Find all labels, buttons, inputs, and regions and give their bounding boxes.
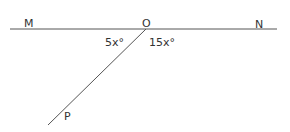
point-label-o: O bbox=[142, 17, 151, 30]
angle-label-pon: 15x° bbox=[149, 36, 175, 49]
angle-diagram: M O N P 5x° 15x° bbox=[0, 0, 290, 132]
point-label-n: N bbox=[255, 18, 263, 31]
angle-label-mop: 5x° bbox=[105, 36, 124, 49]
point-label-m: M bbox=[24, 17, 34, 30]
point-label-p: P bbox=[64, 110, 71, 123]
ray-op bbox=[48, 29, 146, 125]
